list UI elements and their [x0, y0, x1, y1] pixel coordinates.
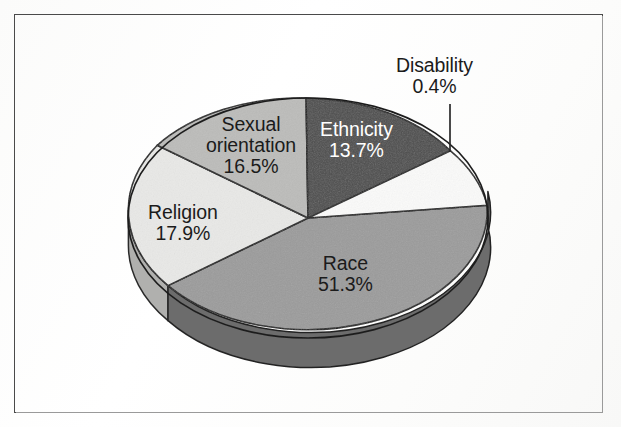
pie-label-race: Race 51.3% — [318, 253, 373, 295]
pie-label-disability-value: 0.4% — [396, 76, 473, 97]
pie-label-ethnicity-value: 13.7% — [320, 140, 393, 161]
pie-label-sexual-orientation-value: 16.5% — [206, 156, 296, 177]
pie-label-sexual-orientation-name-line2: orientation — [206, 135, 296, 156]
pie-label-ethnicity: Ethnicity 13.7% — [320, 119, 393, 161]
pie-label-religion-value: 17.9% — [148, 223, 218, 244]
pie-label-disability-name: Disability — [396, 55, 473, 76]
pie-label-religion-name: Religion — [148, 202, 218, 223]
pie-label-sexual-orientation: Sexual orientation 16.5% — [206, 114, 296, 177]
pie-label-ethnicity-name: Ethnicity — [320, 119, 393, 140]
pie-label-disability: Disability 0.4% — [396, 55, 473, 97]
pie-label-sexual-orientation-name-line1: Sexual — [206, 114, 296, 135]
pie-label-race-name: Race — [318, 253, 373, 274]
figure-root: Race 51.3% Religion 17.9% Sexual orienta… — [0, 0, 621, 427]
pie-label-religion: Religion 17.9% — [148, 202, 218, 244]
pie-label-race-value: 51.3% — [318, 274, 373, 295]
pie-chart-canvas — [0, 0, 621, 427]
